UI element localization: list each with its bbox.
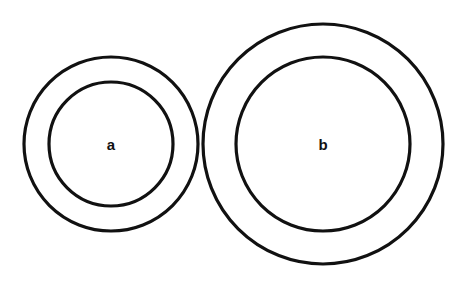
figure-a: a [24,57,198,231]
figure-a-label: a [107,136,116,153]
figure-b-label: b [318,136,327,153]
concentric-circles-diagram: a b [0,0,462,284]
figure-b: b [203,24,443,264]
